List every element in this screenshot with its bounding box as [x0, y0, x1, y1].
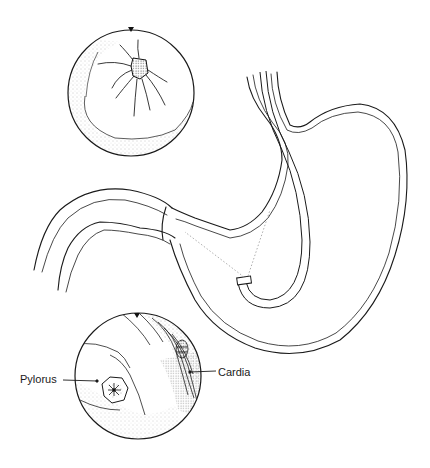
endoscope — [185, 71, 310, 308]
pylorus-label: Pylorus — [20, 373, 57, 385]
bottom-endoscopic-inset — [75, 312, 205, 440]
stomach-diagram — [0, 0, 430, 468]
cardia-label: Cardia — [218, 366, 250, 378]
top-endoscopic-inset — [68, 27, 194, 156]
